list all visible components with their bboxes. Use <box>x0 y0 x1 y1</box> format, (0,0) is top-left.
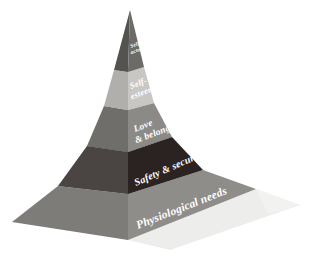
tier-self-esteem[interactable]: Self- esteem <box>104 65 156 110</box>
pyramid-diagram: Physiological needs Safety & security Lo… <box>0 0 312 256</box>
tier-safety-security-left-face <box>58 146 128 194</box>
maslow-pyramid-figure: Physiological needs Safety & security Lo… <box>0 0 312 256</box>
tier-self-actualization-left-face <box>114 10 130 72</box>
tier-self-actualization[interactable]: Self- actualization <box>114 10 161 72</box>
tier-self-esteem-left-face <box>104 70 128 110</box>
tier-physiological-needs-left-face <box>12 186 128 240</box>
tier-love-belonging-left-face <box>87 106 128 152</box>
maslow-hierarchy-of-needs-pyramid: { "figure": { "name": "maslow-hierarchy-… <box>0 0 312 256</box>
